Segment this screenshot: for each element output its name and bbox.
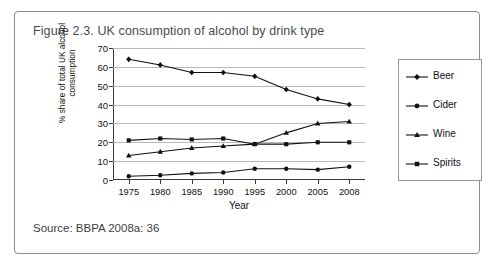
x-tick-mark [286, 180, 287, 184]
series-beer [126, 56, 352, 107]
x-tick-label: 1975 [118, 187, 139, 197]
y-tick-label: 70 [97, 43, 108, 54]
y-tick-label: 0 [103, 175, 108, 186]
y-axis-label: % share of total UK alcohol consumption [58, 9, 80, 137]
y-tick-label: 30 [97, 118, 108, 129]
legend-item-beer[interactable]: Beer [405, 69, 454, 81]
legend-label: Spirits [433, 157, 461, 168]
source-note: Source: BBPA 2008a: 36 [33, 222, 159, 234]
legend-label: Beer [433, 70, 454, 81]
x-tick-mark [223, 180, 224, 184]
y-tick-label: 60 [97, 61, 108, 72]
legend-item-spirits[interactable]: Spirits [405, 156, 461, 168]
x-tick-label: 1980 [150, 187, 171, 197]
square-marker-icon [405, 156, 429, 168]
legend-item-cider[interactable]: Cider [405, 98, 457, 110]
figure-container: Figure 2.3. UK consumption of alcohol by… [14, 11, 480, 254]
x-tick-label: 2005 [307, 187, 328, 197]
x-tick-label: 1985 [181, 187, 202, 197]
legend-label: Wine [433, 128, 456, 139]
series-layer [113, 48, 365, 180]
x-tick-mark [349, 180, 350, 184]
y-tick-mark [109, 180, 113, 181]
x-tick-mark [129, 180, 130, 184]
x-tick-label: 2008 [339, 187, 360, 197]
x-tick-label: 1995 [244, 187, 265, 197]
plot-region: 010203040506070 197519801985199019952000… [113, 48, 365, 180]
y-tick-label: 20 [97, 137, 108, 148]
y-tick-label: 50 [97, 80, 108, 91]
series-cider [127, 165, 352, 179]
diamond-marker-icon [405, 69, 429, 81]
x-tick-mark [255, 180, 256, 184]
x-axis-label: Year [113, 200, 365, 211]
y-tick-label: 10 [97, 156, 108, 167]
x-tick-mark [192, 180, 193, 184]
x-tick-label: 2000 [276, 187, 297, 197]
x-tick-mark [160, 180, 161, 184]
y-tick-label: 40 [97, 99, 108, 110]
x-tick-label: 1990 [213, 187, 234, 197]
triangle-marker-icon [405, 127, 429, 139]
legend-label: Cider [433, 99, 457, 110]
x-tick-mark [318, 180, 319, 184]
circle-marker-icon [405, 98, 429, 110]
chart-legend: BeerCiderWineSpirits [398, 59, 482, 181]
legend-item-wine[interactable]: Wine [405, 127, 456, 139]
